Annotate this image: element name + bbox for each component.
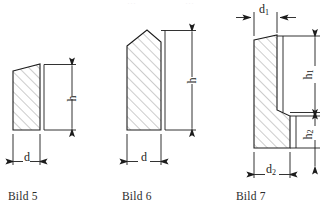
bild-7-d2-sub: 2 bbox=[272, 168, 276, 177]
bild-7-h1-base: h bbox=[301, 74, 315, 80]
bild-6-d-label: d bbox=[140, 150, 148, 165]
bild-7-h2-sub: 2 bbox=[306, 130, 315, 134]
bild-5-h-label: h bbox=[65, 93, 80, 105]
bild-7-h2-dimension bbox=[290, 116, 320, 166]
bild-6-figure bbox=[127, 30, 196, 165]
bild-7-d2-label: d2 bbox=[266, 162, 276, 177]
bild-7-figure bbox=[236, 12, 320, 178]
bild-5-body bbox=[13, 64, 40, 130]
bild-5-caption: Bild 5 bbox=[8, 190, 38, 202]
bild-6-h-label: h bbox=[185, 75, 200, 87]
bild-5-d-label: d bbox=[23, 150, 31, 165]
bild-7-h2-base: h bbox=[301, 134, 315, 140]
technical-drawing-canvas bbox=[0, 0, 331, 213]
bild-6-body bbox=[127, 30, 161, 130]
bild-7-h1-sub: 1 bbox=[306, 70, 315, 74]
bild-6-caption: Bild 6 bbox=[122, 190, 152, 202]
bild-7-d1-sub: 1 bbox=[265, 8, 269, 17]
bild-7-caption: Bild 7 bbox=[236, 190, 266, 202]
bild-7-d1-label: d1 bbox=[259, 2, 269, 17]
bild-7-h1-label: h1 bbox=[301, 70, 316, 80]
bild-7-body bbox=[254, 35, 290, 148]
bild-7-h2-label: h2 bbox=[301, 130, 316, 140]
